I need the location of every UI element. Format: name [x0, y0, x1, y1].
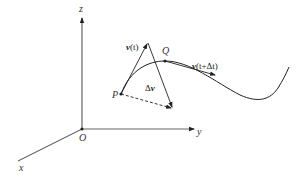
v-t-label: v(t)	[126, 42, 139, 52]
z-axis-label: z	[78, 3, 83, 14]
point-P	[119, 92, 122, 95]
v-t-dt-arg: (t+Δt)	[196, 61, 218, 71]
coordinate-axes	[18, 18, 194, 161]
x-axis-label: x	[18, 162, 24, 173]
v-t-dt-label: v(t+Δt)	[192, 61, 218, 71]
origin-point	[80, 127, 83, 130]
point-Q	[163, 59, 166, 62]
point-Q-label: Q	[162, 45, 170, 56]
velocity-diagram: z y x O P Q v(t) Δv v(t+Δt)	[0, 0, 300, 182]
delta-v-label: Δv	[145, 83, 156, 93]
origin-label: O	[79, 132, 86, 143]
v-t-arg: (t)	[130, 42, 139, 52]
y-axis-label: y	[196, 126, 202, 137]
delta-v-symbol: v	[151, 83, 156, 93]
x-axis	[18, 129, 82, 161]
v-t-dt-translated-vector	[121, 94, 171, 108]
point-P-label: P	[111, 89, 118, 100]
